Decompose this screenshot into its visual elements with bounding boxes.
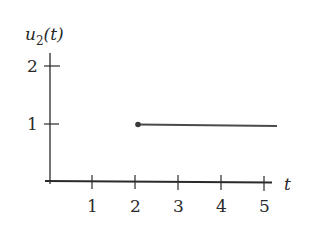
x-tick-label-4: 4 [216,196,227,216]
x-tick-label-3: 3 [173,196,184,216]
step-function-chart: u2(t) 2 1 1 2 3 4 5 t [0,0,309,226]
x-axis-label: t [284,174,291,194]
y-tick-label-1: 1 [27,114,38,134]
x-tick-label-1: 1 [87,196,98,216]
x-tick-label-2: 2 [130,196,141,216]
y-axis-label-subscript: 2 [36,34,44,48]
start-point-marker [135,122,141,128]
series-line [138,125,277,127]
y-tick-label-2: 2 [27,56,38,76]
x-tick-label-5: 5 [259,196,270,216]
x-axis [45,181,272,183]
y-axis-label: u2(t) [25,24,64,48]
y-ticks [44,66,60,124]
